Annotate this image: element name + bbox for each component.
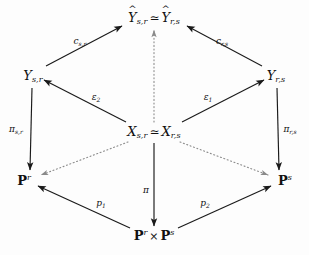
x-right-subscript: r,s [171,131,181,140]
label-c-s-r: cs,r [74,37,87,47]
node-y-rs: Yr,s [267,69,286,84]
arrow-dotted-center-to-p-s-line [180,142,268,175]
label-epsilon-2-subscript: 2 [97,96,101,103]
label-c-r-s: cr,s [216,37,228,47]
x-left-subscript: s,r [137,131,148,140]
arrow-pi-s-r-line [30,88,32,170]
label-pi: π [143,186,149,195]
node-x-iso: Xs,r≃Xr,s [127,125,180,140]
iso-relation-top: ≃ [147,11,161,25]
label-pi-s-r-subscript: s,r [15,128,23,135]
node-y-sr: Ys,r [23,69,42,84]
arrow-p-1-line [38,186,130,228]
arrow-pi-r-s-line [277,88,279,170]
label-epsilon-1: ε1 [204,93,213,103]
arrow-epsilon-2-line [44,80,126,122]
label-pi-s-r: πs,r [9,125,23,135]
y-hat-right-subscript: r,s [170,17,180,26]
arrow-p-2-line [178,186,271,228]
label-p-2-subscript: 2 [206,202,210,209]
y-sr-base: Y [23,68,32,83]
hat-accent-icon: ^ [128,4,136,14]
label-p-1-subscript: 1 [102,202,106,209]
node-p-r: Pr [17,174,31,187]
y-hat-left-subscript: s,r [137,17,148,26]
label-epsilon-1-subscript: 1 [209,96,213,103]
y-rs-base: Y [267,68,276,83]
label-epsilon-2: ε2 [92,93,101,103]
product-right-superscript: s [170,228,174,237]
p-s-base: P [278,173,288,188]
times-operator: × [147,230,160,243]
label-p-1: p1 [96,199,106,209]
p-s-superscript: s [288,173,292,182]
node-p-r-times-p-s: Pr×Ps [134,229,175,242]
x-left-base: X [127,124,136,139]
y-hat-right: ^Y [161,11,170,24]
label-pi-r-s: πr,s [283,125,296,135]
commutative-diagram: ^Ys,r≃^Yr,s Ys,r Yr,s Xs,r≃Xr,s Pr Ps Pr… [0,0,309,255]
label-c-r-s-subscript: r,s [221,40,228,47]
y-rs-subscript: r,s [275,75,285,84]
label-c-s-r-subscript: s,r [79,40,87,47]
node-p-s: Ps [278,174,292,187]
iso-relation-center: ≃ [147,125,161,139]
arrow-dotted-center-to-p-r-line [41,142,128,175]
p-r-superscript: r [27,173,31,182]
node-y-hat-iso: ^Ys,r≃^Yr,s [128,11,180,26]
product-right-base: P [160,228,170,243]
label-pi-r-s-subscript: r,s [289,128,296,135]
p-r-base: P [17,173,27,188]
y-hat-left: ^Y [128,11,137,24]
y-sr-subscript: s,r [32,75,43,84]
arrow-epsilon-1-line [182,80,264,122]
hat-accent-icon: ^ [162,4,170,14]
product-left-base: P [134,228,144,243]
label-p-2: p2 [200,199,210,209]
label-pi-base: π [143,185,149,195]
x-right-base: X [161,124,170,139]
